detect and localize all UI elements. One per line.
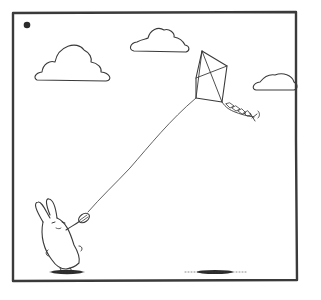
panel-border xyxy=(13,12,297,281)
bunny-character-icon xyxy=(36,199,92,272)
cloud-center-icon xyxy=(130,28,188,52)
corner-dot-icon xyxy=(24,22,31,29)
comic-panel xyxy=(0,0,321,300)
kite-string xyxy=(88,98,196,212)
diamond-kite-icon xyxy=(196,51,260,121)
cloud-right-icon xyxy=(253,74,297,90)
cloud-left-icon xyxy=(35,45,110,81)
